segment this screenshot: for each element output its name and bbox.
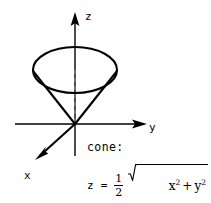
cone-caption-text: cone:: [87, 140, 211, 154]
fraction-denominator: 2: [114, 186, 123, 198]
radicand-operator: +: [182, 179, 192, 193]
equation-equals-sign: =: [101, 179, 108, 192]
caption-block: cone:: [87, 140, 211, 154]
y-axis-label: y: [149, 122, 156, 133]
cone-equation: z = 1 2 x2+y2: [87, 164, 208, 203]
radicand: x2+y2: [137, 164, 208, 203]
x-axis-line: [44, 124, 75, 152]
radicand-term1-exponent: 2: [176, 178, 181, 187]
equation-coefficient-fraction: 1 2: [114, 173, 123, 198]
radicand-term2-exponent: 2: [201, 178, 206, 187]
z-axis-label: z: [85, 11, 92, 22]
cone-slant-right: [75, 71, 117, 124]
cone-figure: z y x cone: z = 1 2 x2+y2: [0, 0, 211, 203]
square-root-expression: x2+y2: [128, 164, 208, 203]
radicand-term1-base: x: [169, 179, 176, 193]
x-axis-label: x: [24, 170, 31, 181]
fraction-numerator: 1: [114, 173, 123, 185]
cone-slant-left: [33, 71, 75, 124]
radical-sign-icon: [128, 164, 137, 181]
equation-lhs: z: [87, 179, 94, 192]
